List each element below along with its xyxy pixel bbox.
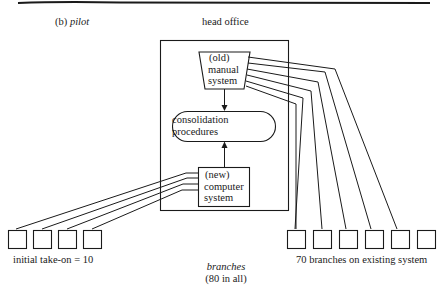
right-branch-boxes: [288, 231, 436, 249]
head-office-label: head office: [202, 16, 249, 28]
consolidation-line2: procedures: [172, 126, 276, 138]
consolidation-line1: consolidation: [172, 114, 276, 126]
new-computer-system-label: (new) computer system: [204, 169, 244, 204]
right-branch-connectors: [246, 57, 397, 229]
pilot-diagram: [0, 0, 445, 287]
section-label-prefix: (b): [55, 16, 67, 27]
new-system-line1: (new): [204, 169, 244, 181]
left-group-label: initial take-on = 10: [13, 254, 93, 266]
branch-box: [314, 231, 332, 249]
arrowhead-down-icon: [222, 105, 228, 111]
left-branch-connectors: [16, 173, 198, 229]
branch-box: [392, 231, 410, 249]
section-label-title: pilot: [70, 16, 89, 27]
new-system-line3: system: [204, 192, 244, 204]
branch-box: [9, 231, 27, 249]
branch-box: [34, 231, 52, 249]
branches-count-label: (80 in all): [175, 273, 277, 285]
top-rule: [18, 2, 430, 3]
branch-box: [418, 231, 436, 249]
branch-box: [59, 231, 77, 249]
branch-box: [288, 231, 306, 249]
old-system-line3: system: [208, 75, 239, 87]
right-group-label: 70 branches on existing system: [296, 254, 427, 266]
old-system-line1: (old): [208, 52, 239, 64]
consolidation-procedures-label: consolidation procedures: [172, 114, 276, 137]
branches-label: branches: [175, 261, 277, 273]
branch-box: [340, 231, 358, 249]
old-manual-system-label: (old) manual system: [208, 52, 239, 87]
branch-box: [366, 231, 384, 249]
new-system-line2: computer: [204, 181, 244, 193]
old-system-line2: manual: [208, 64, 239, 76]
arrowhead-up-icon: [222, 142, 228, 149]
section-label: (b) pilot: [55, 16, 89, 28]
left-branch-boxes: [9, 231, 102, 249]
branch-box: [84, 231, 102, 249]
branches-caption: branches (80 in all): [175, 261, 277, 285]
